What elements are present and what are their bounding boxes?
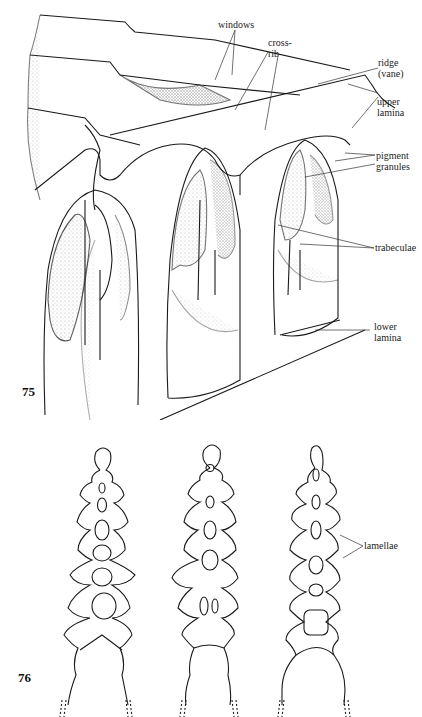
label-cross-rib: cross- rib xyxy=(268,38,292,59)
label-ridge-vane: ridge (vane) xyxy=(378,58,404,79)
figure-76-cross-sections: lamellae 76 xyxy=(0,430,422,717)
figure-number-75: 75 xyxy=(22,384,35,400)
label-lamellae: lamellae xyxy=(364,541,398,552)
label-lower-lamina: lower lamina xyxy=(374,322,401,343)
section-right xyxy=(278,446,350,717)
label-trabeculae: trabeculae xyxy=(375,243,416,254)
figure-number-76: 76 xyxy=(18,670,31,686)
label-pigment-granules: pigment granules xyxy=(376,151,410,172)
section-left xyxy=(60,448,135,717)
scale-cutaway-drawing xyxy=(0,0,422,420)
section-middle xyxy=(172,445,238,717)
cross-sections-drawing xyxy=(0,430,422,717)
label-upper-lamina: upper lamina xyxy=(377,97,404,118)
label-windows: windows xyxy=(218,20,254,31)
figure-75-scale-cutaway: windows cross- rib ridge (vane) upper la… xyxy=(0,0,422,420)
